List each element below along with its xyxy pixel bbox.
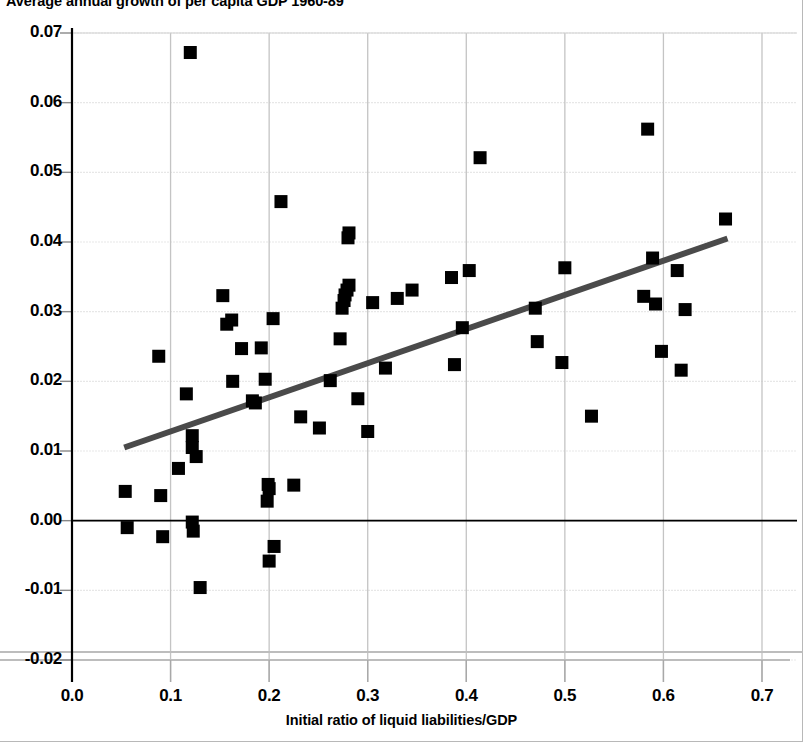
- plot-area: [0, 0, 803, 742]
- scatter-point: [186, 429, 199, 442]
- scatter-point: [255, 341, 268, 354]
- x-axis-tick-label: 0.5: [535, 686, 595, 706]
- scatter-point: [342, 226, 355, 239]
- scatter-point: [194, 581, 207, 594]
- scatter-point: [187, 525, 200, 538]
- scatter-point: [366, 296, 379, 309]
- scatter-point: [391, 292, 404, 305]
- scatter-point: [529, 302, 542, 315]
- scatter-point: [274, 195, 287, 208]
- scatter-point: [225, 314, 238, 327]
- scatter-point: [152, 350, 165, 363]
- scatter-point: [261, 495, 274, 508]
- scatter-point: [558, 261, 571, 274]
- scatter-point: [555, 356, 568, 369]
- scatter-point: [463, 264, 476, 277]
- scatter-point: [216, 289, 229, 302]
- scatter-point: [445, 271, 458, 284]
- scatter-point: [235, 342, 248, 355]
- scatter-point: [268, 540, 281, 553]
- y-axis-tick-label: 0.05: [0, 161, 62, 181]
- scatter-point: [675, 364, 688, 377]
- scatter-point: [180, 387, 193, 400]
- scatter-point: [249, 396, 262, 409]
- scatter-point: [119, 485, 132, 498]
- scatter-point: [342, 279, 355, 292]
- y-axis-tick-label: 0.04: [0, 231, 62, 251]
- scatter-point: [156, 530, 169, 543]
- scatter-point: [671, 264, 684, 277]
- scatter-point: [646, 252, 659, 265]
- y-axis-tick-label: 0.00: [0, 510, 62, 530]
- scatter-point: [655, 345, 668, 358]
- scatter-point: [154, 489, 167, 502]
- y-axis-tick-label: 0.06: [0, 92, 62, 112]
- scatter-point: [719, 213, 732, 226]
- scatter-point: [679, 303, 692, 316]
- scatter-point: [351, 392, 364, 405]
- y-axis-tick-label: 0.03: [0, 301, 62, 321]
- y-axis-tick-label: -0.01: [0, 579, 62, 599]
- scatter-point: [637, 290, 650, 303]
- scatter-point: [334, 332, 347, 345]
- chart-container: Average annual growth of per capita GDP …: [0, 0, 803, 742]
- y-axis-tick-label: 0.07: [0, 22, 62, 42]
- x-axis-tick-label: 0.4: [436, 686, 496, 706]
- scatter-point: [263, 555, 276, 568]
- x-axis-tick-label: 0.3: [338, 686, 398, 706]
- scatter-point: [294, 410, 307, 423]
- x-axis-tick-label: 0.7: [732, 686, 792, 706]
- y-axis-tick-label: -0.02: [0, 649, 62, 669]
- scatter-point: [406, 284, 419, 297]
- scatter-point: [456, 321, 469, 334]
- scatter-point: [474, 151, 487, 164]
- scatter-point: [267, 312, 280, 325]
- scatter-point: [448, 358, 461, 371]
- scatter-point: [361, 425, 374, 438]
- scatter-point: [121, 521, 134, 534]
- x-axis-tick-label: 0.1: [141, 686, 201, 706]
- scatter-point: [172, 462, 185, 475]
- x-axis-tick-label: 0.2: [239, 686, 299, 706]
- scatter-point: [649, 298, 662, 311]
- scatter-point: [531, 335, 544, 348]
- y-axis-tick-label: 0.01: [0, 440, 62, 460]
- scatter-point: [379, 362, 392, 375]
- scatter-point: [585, 410, 598, 423]
- x-axis-tick-label: 0.0: [42, 686, 102, 706]
- scatter-point: [287, 479, 300, 492]
- scatter-point: [190, 450, 203, 463]
- y-axis-tick-label: 0.02: [0, 370, 62, 390]
- scatter-point: [641, 123, 654, 136]
- scatter-point: [263, 482, 276, 495]
- scatter-point: [184, 46, 197, 59]
- scatter-point: [324, 374, 337, 387]
- scatter-point: [259, 373, 272, 386]
- scatter-point: [313, 422, 326, 435]
- x-axis-title: Initial ratio of liquid liabilities/GDP: [0, 712, 803, 728]
- scatter-point: [226, 375, 239, 388]
- x-axis-tick-label: 0.6: [633, 686, 693, 706]
